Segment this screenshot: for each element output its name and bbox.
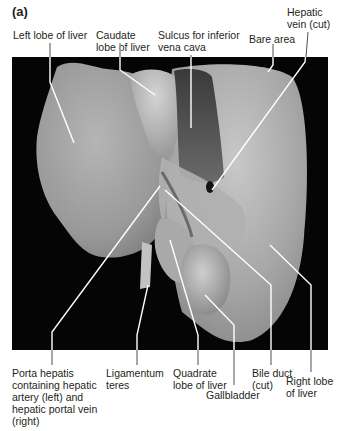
liver-photograph <box>12 57 328 350</box>
label-right-lobe: Right lobe of liver <box>286 375 333 399</box>
label-hepatic-vein: Hepatic vein (cut) <box>287 6 330 30</box>
liver-illustration <box>12 57 328 350</box>
label-quadrate-lobe: Quadrate lobe of liver <box>173 367 227 391</box>
gallbladder-shape <box>180 244 231 315</box>
label-porta-hepatis: Porta hepatis containing hepatic artery … <box>12 367 97 427</box>
label-caudate-lobe: Caudate lobe of liver <box>96 29 150 53</box>
hepatic-vein-opening <box>206 181 214 193</box>
label-bare-area: Bare area <box>249 33 295 45</box>
label-left-lobe: Left lobe of liver <box>13 29 87 41</box>
label-sulcus-ivc: Sulcus for inferior vena cava <box>158 29 240 53</box>
ligamentum-teres-shape <box>140 242 152 289</box>
panel-label: (a) <box>12 4 28 19</box>
label-ligamentum-teres: Ligamentum teres <box>106 367 164 391</box>
